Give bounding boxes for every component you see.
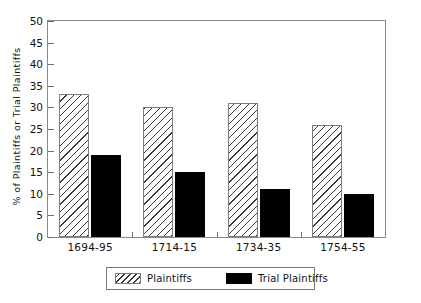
y-axis-title: % of Plaintiffs or Trial Plaintiffs — [11, 27, 22, 227]
bar-plaintiffs-1714-15 — [143, 107, 173, 237]
x-axis-category-label: 1734-35 — [236, 241, 281, 253]
bar-trial-plaintiffs-1694-95 — [91, 155, 121, 237]
bar-trial-plaintiffs-1714-15 — [175, 172, 205, 237]
x-axis-tick — [301, 232, 302, 237]
x-axis-tick — [217, 232, 218, 237]
plot-area: 05101520253035404550 — [47, 20, 386, 238]
y-axis-tick — [48, 151, 54, 152]
y-axis-tick — [48, 64, 54, 65]
bar-chart: % of Plaintiffs or Trial Plaintiffs 0510… — [0, 0, 421, 303]
y-axis-tick-label: 50 — [30, 16, 43, 27]
y-axis-tick — [48, 86, 54, 87]
y-axis-tick-label: 40 — [30, 59, 43, 70]
legend-swatch-hatch-icon — [115, 273, 141, 284]
bar-plaintiffs-1734-35 — [228, 103, 258, 237]
y-axis-tick — [48, 172, 54, 173]
plot-inner: 05101520253035404550 — [48, 21, 385, 237]
legend-label-trial-plaintiffs: Trial Plaintiffs — [258, 273, 328, 284]
y-axis-tick — [48, 107, 54, 108]
y-axis-tick — [48, 129, 54, 130]
y-axis-tick-label: 5 — [36, 210, 43, 221]
chart-legend: Plaintiffs Trial Plaintiffs — [106, 267, 315, 290]
legend-item-trial-plaintiffs: Trial Plaintiffs — [226, 268, 328, 289]
y-axis-tick-label: 10 — [30, 189, 43, 200]
x-axis-tick — [132, 232, 133, 237]
y-axis-tick-label: 15 — [30, 167, 43, 178]
y-axis-tick — [48, 215, 54, 216]
legend-item-plaintiffs: Plaintiffs — [115, 268, 192, 289]
y-axis-tick-label: 20 — [30, 145, 43, 156]
y-axis-tick-label: 25 — [30, 124, 43, 135]
bar-trial-plaintiffs-1734-35 — [260, 189, 290, 237]
y-axis-tick-label: 45 — [30, 37, 43, 48]
y-axis-tick — [48, 194, 54, 195]
y-axis-tick-label: 30 — [30, 102, 43, 113]
legend-swatch-solid-icon — [226, 273, 252, 284]
y-axis-tick-label: 35 — [30, 81, 43, 92]
bar-plaintiffs-1694-95 — [59, 94, 89, 237]
x-axis-category-label: 1694-95 — [67, 241, 112, 253]
bar-trial-plaintiffs-1754-55 — [344, 194, 374, 237]
bar-plaintiffs-1754-55 — [312, 125, 342, 237]
y-axis-tick-label: 0 — [36, 232, 43, 243]
y-axis-tick — [48, 237, 54, 238]
y-axis-tick — [48, 43, 54, 44]
x-axis-category-label: 1754-55 — [320, 241, 365, 253]
legend-label-plaintiffs: Plaintiffs — [147, 273, 192, 284]
y-axis-tick — [48, 21, 54, 22]
x-axis-category-label: 1714-15 — [152, 241, 197, 253]
